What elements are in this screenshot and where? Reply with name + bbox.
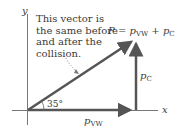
p-c-label: pC (140, 70, 152, 85)
annotation-line: and after the (36, 36, 118, 48)
y-axis-label: y (22, 5, 28, 16)
angle-label: 35° (47, 99, 63, 110)
annotation-text: This vector is the same before and after… (36, 13, 118, 59)
annotation-line: collision. (36, 48, 118, 60)
vec-P-symbol: P (108, 25, 115, 36)
angle-arc (42, 101, 45, 110)
p-vw-label: pVW (84, 115, 103, 130)
annotation-line: This vector is (36, 13, 118, 25)
x-axis-label: x (162, 104, 168, 115)
annotation-line: the same before (36, 25, 118, 37)
equation: P = pVW + pC (108, 25, 175, 40)
